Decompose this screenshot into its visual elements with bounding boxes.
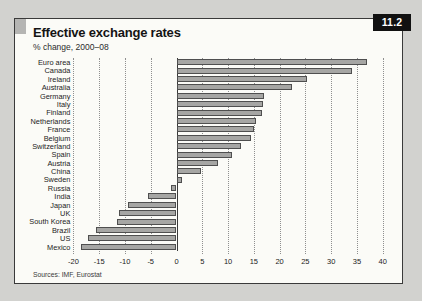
- gridline: [331, 58, 332, 254]
- bar: [128, 202, 177, 208]
- bar: [177, 93, 265, 99]
- bar: [88, 235, 177, 241]
- bar: [177, 135, 251, 141]
- gridline: [99, 58, 100, 254]
- x-tick-label: 5: [191, 257, 213, 266]
- bar: [117, 219, 177, 225]
- bar: [177, 160, 218, 166]
- bar: [177, 101, 264, 107]
- bar: [177, 59, 368, 65]
- bar: [177, 110, 262, 116]
- bar: [171, 185, 176, 191]
- x-tick-label: -15: [88, 257, 110, 266]
- x-tick-label: 35: [346, 257, 368, 266]
- bar: [81, 244, 176, 250]
- x-tick-label: 40: [372, 257, 394, 266]
- bar: [177, 152, 233, 158]
- bar: [96, 227, 176, 233]
- gridline: [383, 58, 384, 254]
- x-tick-label: -20: [62, 257, 84, 266]
- bar: [177, 168, 202, 174]
- x-tick-label: 15: [243, 257, 265, 266]
- x-tick-label: -5: [140, 257, 162, 266]
- bar: [119, 210, 177, 216]
- plot-area: -20-15-10-50510152025303540Euro areaCana…: [15, 19, 402, 283]
- bar: [148, 193, 176, 199]
- x-tick-label: 25: [294, 257, 316, 266]
- bar: [177, 84, 292, 90]
- bar: [177, 68, 352, 74]
- sources-note: Sources: IMF, Eurostat: [33, 271, 102, 278]
- x-tick-label: -10: [114, 257, 136, 266]
- x-tick-label: 10: [217, 257, 239, 266]
- bar: [177, 143, 241, 149]
- gridline: [73, 58, 74, 254]
- gridline: [357, 58, 358, 254]
- chart-panel: 11.2 Effective exchange rates % change, …: [14, 18, 403, 284]
- bar: [177, 118, 257, 124]
- category-label: Mexico: [17, 243, 70, 252]
- gridline: [305, 58, 306, 254]
- bar: [177, 177, 182, 183]
- x-tick-label: 20: [269, 257, 291, 266]
- bar: [177, 76, 308, 82]
- bar: [177, 126, 254, 132]
- x-tick-label: 30: [320, 257, 342, 266]
- x-tick-label: 0: [166, 257, 188, 266]
